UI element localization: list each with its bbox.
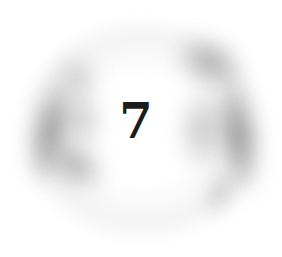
chapter-ornament: 7: [0, 0, 282, 257]
chapter-number: 7: [0, 93, 272, 149]
